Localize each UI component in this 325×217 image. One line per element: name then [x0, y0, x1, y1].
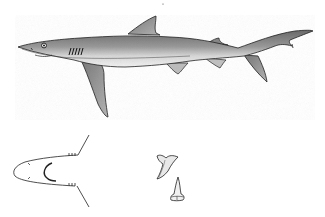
lateral-view	[15, 3, 315, 120]
lower-tooth	[171, 177, 184, 201]
upper-tooth	[157, 155, 178, 179]
ventral-head-view	[14, 135, 89, 207]
shark-illustration	[0, 0, 325, 217]
